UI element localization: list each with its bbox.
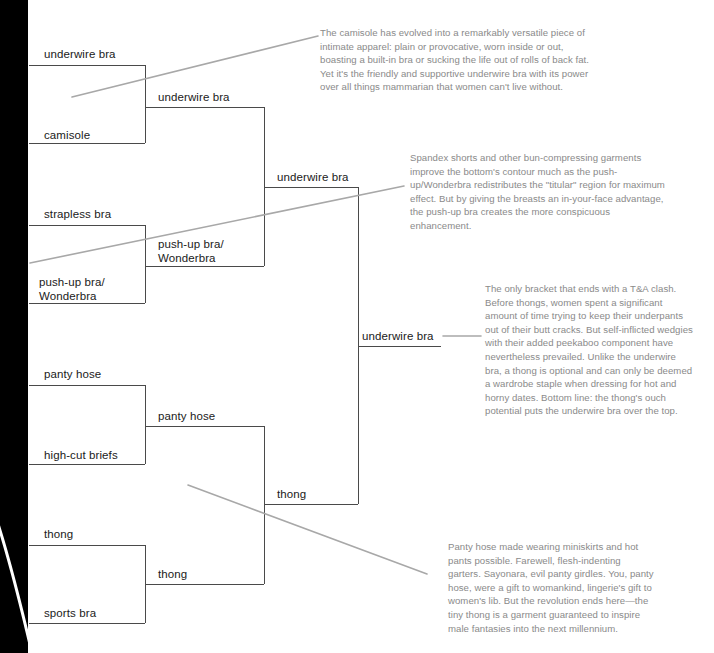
note-camisole: The camisole has evolved into a remarkab… [320, 26, 598, 94]
slot-r2-m1[interactable]: underwire bra [158, 91, 230, 105]
slot-r2-m3[interactable]: panty hose [158, 410, 215, 424]
slot-r1-m4-top[interactable]: thong [44, 528, 73, 542]
slot-r1-m1-top[interactable]: underwire bra [44, 48, 116, 62]
note-pantyhose: Panty hose made wearing miniskirts and h… [448, 540, 656, 635]
slot-r3-m2[interactable]: thong [277, 488, 306, 502]
leader-line-pantyhose [188, 485, 427, 574]
slot-champion[interactable]: underwire bra [362, 330, 434, 344]
slot-r1-m4-bottom[interactable]: sports bra [44, 607, 96, 621]
slot-r1-m2-bottom[interactable]: push-up bra/ Wonderbra [39, 276, 105, 303]
slot-r1-m1-bottom[interactable]: camisole [44, 129, 90, 143]
slot-r1-m2-top[interactable]: strapless bra [44, 208, 111, 222]
slot-r3-m1[interactable]: underwire bra [277, 171, 349, 185]
note-final: The only bracket that ends with a T&A cl… [485, 282, 693, 418]
leader-line-camisole [72, 36, 318, 97]
slot-r1-m3-bottom[interactable]: high-cut briefs [44, 449, 118, 463]
bracket-figure: underwire bra camisole strapless bra pus… [0, 0, 714, 653]
slot-r2-m2[interactable]: push-up bra/ Wonderbra [158, 238, 224, 265]
slot-r1-m3-top[interactable]: panty hose [44, 368, 101, 382]
note-pushup: Spandex shorts and other bun-compressing… [410, 151, 668, 233]
slot-r2-m4[interactable]: thong [158, 568, 187, 582]
